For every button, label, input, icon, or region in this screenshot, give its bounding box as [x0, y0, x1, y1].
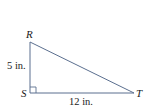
side-st-length-label: 12 in.: [69, 97, 93, 108]
triangle-diagram: R S T 5 in. 12 in.: [0, 0, 150, 111]
side-rs-length-label: 5 in.: [7, 61, 26, 72]
vertex-label-r: R: [26, 29, 33, 40]
vertex-label-s: S: [21, 88, 27, 99]
vertex-label-t: T: [136, 88, 142, 99]
side-rt-hypotenuse: [30, 42, 134, 93]
right-angle-marker: [30, 87, 36, 93]
